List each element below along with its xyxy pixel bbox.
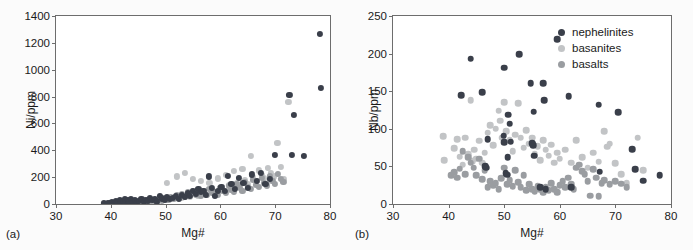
- data-point: [495, 107, 502, 114]
- data-point: [530, 142, 537, 149]
- y-tick-label: 1400: [24, 10, 50, 22]
- data-point: [459, 148, 466, 155]
- data-point: [505, 111, 512, 118]
- y-tick-label: 50: [374, 160, 387, 172]
- data-point: [565, 93, 572, 100]
- data-point: [441, 157, 448, 164]
- data-point: [462, 171, 469, 178]
- data-point: [520, 172, 527, 179]
- data-point: [468, 56, 475, 63]
- figure-scatter-plots: Ni/ppm Mg# 02004006008001000120014003040…: [0, 0, 693, 250]
- x-tick: [275, 204, 276, 208]
- y-tick: [52, 123, 56, 124]
- data-point: [470, 165, 477, 172]
- x-tick: [166, 204, 167, 208]
- x-tick: [560, 204, 561, 208]
- data-point: [318, 85, 324, 91]
- x-tick-label: 70: [269, 210, 282, 222]
- x-axis-title-a: Mg#: [181, 226, 204, 240]
- data-point: [454, 136, 461, 143]
- x-tick-label: 30: [50, 210, 63, 222]
- data-point: [476, 138, 483, 145]
- x-tick: [111, 204, 112, 208]
- data-point: [504, 154, 511, 161]
- data-point: [501, 65, 508, 72]
- data-points-a: [56, 16, 330, 204]
- data-point: [528, 80, 535, 87]
- data-point: [618, 171, 625, 178]
- data-point: [568, 184, 575, 191]
- data-point: [557, 156, 564, 163]
- y-tick: [52, 97, 56, 98]
- data-point: [537, 157, 544, 164]
- x-tick-label: 40: [442, 210, 455, 222]
- y-tick-label: 600: [31, 117, 50, 129]
- data-point: [601, 128, 608, 135]
- data-point: [239, 166, 245, 172]
- panel-label-a: (a): [6, 228, 20, 240]
- data-point: [501, 139, 508, 146]
- legend-marker-basalts-icon: [558, 61, 565, 68]
- data-point: [612, 160, 619, 167]
- data-point: [634, 135, 641, 142]
- data-point: [173, 173, 179, 179]
- y-tick: [389, 166, 393, 167]
- data-point: [565, 174, 572, 181]
- data-point: [285, 99, 291, 105]
- legend-label-basalts: basalts: [572, 58, 608, 70]
- y-tick: [52, 177, 56, 178]
- data-point: [541, 97, 548, 104]
- data-point: [595, 159, 602, 166]
- data-point: [272, 181, 278, 187]
- y-tick-label: 1200: [24, 37, 50, 49]
- data-point: [440, 133, 447, 140]
- y-tick-label: 150: [368, 85, 387, 97]
- data-point: [640, 177, 647, 184]
- data-point: [272, 152, 278, 158]
- x-tick: [56, 204, 57, 208]
- data-point: [516, 51, 523, 58]
- panel-b: nephelinites basanites basalts Nb/ppm Mg…: [347, 0, 693, 250]
- data-point: [484, 129, 491, 136]
- data-point: [483, 165, 490, 172]
- x-tick: [393, 204, 394, 208]
- y-tick: [389, 16, 393, 17]
- data-point: [206, 173, 212, 179]
- data-point: [657, 172, 664, 179]
- y-tick-label: 100: [368, 123, 387, 135]
- y-tick: [52, 70, 56, 71]
- data-point: [278, 164, 284, 170]
- y-tick-label: 800: [31, 91, 50, 103]
- x-tick: [220, 204, 221, 208]
- x-tick-label: 50: [159, 210, 172, 222]
- x-tick-label: 60: [553, 210, 566, 222]
- y-tick-label: 0: [44, 198, 50, 210]
- y-tick: [52, 43, 56, 44]
- y-tick: [52, 16, 56, 17]
- x-tick-label: 40: [104, 210, 117, 222]
- y-tick-label: 200: [368, 48, 387, 60]
- legend-marker-nephelinites-icon: [558, 29, 565, 36]
- data-point: [584, 178, 591, 185]
- y-tick-label: 400: [31, 144, 50, 156]
- data-point: [615, 109, 622, 116]
- data-point: [582, 171, 589, 178]
- data-point: [562, 147, 569, 154]
- data-point: [579, 154, 586, 161]
- data-point: [587, 192, 594, 199]
- data-point: [164, 179, 170, 185]
- data-point: [274, 140, 280, 146]
- data-point: [545, 153, 552, 160]
- data-point: [231, 168, 237, 174]
- x-tick: [615, 204, 616, 208]
- data-point: [301, 153, 307, 159]
- data-point: [471, 147, 478, 154]
- data-point: [508, 138, 515, 145]
- data-point: [225, 173, 231, 179]
- data-point: [548, 141, 555, 148]
- data-point: [256, 184, 262, 190]
- x-tick: [504, 204, 505, 208]
- y-tick: [389, 91, 393, 92]
- x-tick-label: 50: [498, 210, 511, 222]
- data-point: [451, 145, 458, 152]
